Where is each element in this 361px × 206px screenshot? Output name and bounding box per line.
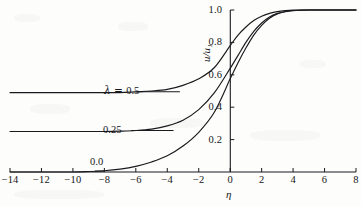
curve-series-2 [10, 10, 356, 172]
y-axis-title: u/u₁ [200, 44, 212, 62]
curve-label-lambda-0.25: 0.25 [103, 124, 121, 135]
y-axis-title-text: u/u₁ [200, 44, 212, 62]
data-curves-group [10, 10, 356, 172]
x-axis-ticks [10, 168, 356, 172]
y-tick-label-4: 0.4 [200, 101, 222, 112]
x-tick-label-9: 4 [282, 174, 304, 185]
x-tick-label-8: 2 [251, 174, 273, 185]
x-tick-label-7: 0 [219, 174, 241, 185]
x-tick-label-4: −6 [125, 174, 147, 185]
x-tick-label-2: −10 [62, 174, 84, 185]
y-tick-label-1: 1.0 [200, 4, 222, 15]
x-tick-label-1: −12 [30, 174, 52, 185]
x-tick-label-3: −8 [93, 174, 115, 185]
x-tick-label-0: −14 [0, 174, 21, 185]
x-tick-label-6: −2 [188, 174, 210, 185]
curve-label-lambda-0.5: λ = 0.5 [104, 84, 139, 96]
figure-container: 1.0 0.8 0.6 0.4 0.2 u/u₁ η λ = 0.5 0.25 … [0, 0, 361, 206]
x-tick-label-10: 6 [314, 174, 336, 185]
y-tick-label-3: 0.6 [200, 69, 222, 80]
plot-canvas [0, 0, 361, 206]
x-tick-label-5: −4 [156, 174, 178, 185]
x-tick-label-11: 8 [345, 174, 361, 185]
curve-series-0 [10, 10, 356, 93]
lambda-half-value: 0.5 [126, 85, 139, 96]
curve-label-lambda-0.0: 0.0 [90, 156, 103, 167]
axes-group [10, 10, 356, 172]
curve-series-1 [10, 10, 356, 132]
y-tick-label-5: 0.2 [200, 134, 222, 145]
lambda-symbol-prefix: λ = [104, 84, 126, 96]
x-axis-title: η [226, 188, 231, 200]
